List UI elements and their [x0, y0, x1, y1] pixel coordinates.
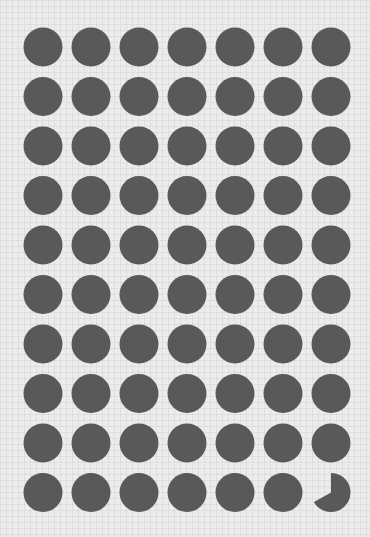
waffle-unit — [72, 77, 111, 116]
waffle-unit — [72, 374, 111, 413]
waffle-unit — [264, 473, 303, 512]
waffle-unit — [168, 424, 207, 463]
waffle-unit — [168, 226, 207, 265]
waffle-unit — [120, 325, 159, 364]
waffle-unit — [216, 325, 255, 364]
waffle-unit — [24, 127, 63, 166]
waffle-unit — [72, 28, 111, 67]
waffle-unit — [24, 176, 63, 215]
waffle-unit — [72, 275, 111, 314]
waffle-unit — [24, 374, 63, 413]
waffle-unit — [72, 325, 111, 364]
waffle-unit — [312, 325, 351, 364]
waffle-unit — [120, 28, 159, 67]
waffle-unit — [312, 176, 351, 215]
waffle-unit — [264, 275, 303, 314]
waffle-unit — [120, 374, 159, 413]
waffle-unit — [120, 275, 159, 314]
waffle-unit — [168, 473, 207, 512]
waffle-unit — [120, 226, 159, 265]
waffle-unit — [264, 77, 303, 116]
waffle-unit — [24, 275, 63, 314]
waffle-partial-unit — [314, 473, 351, 512]
waffle-unit — [120, 77, 159, 116]
waffle-unit — [264, 176, 303, 215]
waffle-unit — [24, 325, 63, 364]
waffle-unit — [312, 77, 351, 116]
waffle-unit — [312, 424, 351, 463]
waffle-unit — [312, 374, 351, 413]
waffle-unit — [216, 424, 255, 463]
waffle-unit — [72, 473, 111, 512]
waffle-unit — [72, 176, 111, 215]
waffle-unit — [216, 275, 255, 314]
waffle-unit — [216, 226, 255, 265]
waffle-unit — [72, 226, 111, 265]
waffle-unit — [216, 473, 255, 512]
waffle-unit — [24, 473, 63, 512]
waffle-unit — [24, 28, 63, 67]
waffle-unit — [264, 424, 303, 463]
waffle-unit — [216, 77, 255, 116]
waffle-unit — [168, 325, 207, 364]
waffle-unit — [312, 127, 351, 166]
waffle-unit — [312, 275, 351, 314]
waffle-unit — [264, 226, 303, 265]
waffle-unit — [168, 28, 207, 67]
waffle-unit — [24, 77, 63, 116]
waffle-unit — [264, 127, 303, 166]
waffle-unit — [264, 28, 303, 67]
waffle-unit — [120, 176, 159, 215]
waffle-unit — [72, 127, 111, 166]
waffle-unit — [264, 374, 303, 413]
waffle-unit — [168, 275, 207, 314]
waffle-unit — [120, 473, 159, 512]
waffle-unit — [72, 424, 111, 463]
waffle-unit — [120, 127, 159, 166]
waffle-unit — [168, 127, 207, 166]
waffle-unit — [168, 77, 207, 116]
waffle-unit — [24, 424, 63, 463]
waffle-unit — [24, 226, 63, 265]
waffle-chart — [0, 0, 370, 537]
waffle-unit — [216, 374, 255, 413]
waffle-unit — [168, 176, 207, 215]
waffle-unit — [168, 374, 207, 413]
waffle-unit — [216, 127, 255, 166]
waffle-unit — [120, 424, 159, 463]
waffle-unit — [216, 176, 255, 215]
waffle-unit — [264, 325, 303, 364]
waffle-unit — [216, 28, 255, 67]
waffle-unit — [312, 226, 351, 265]
waffle-unit — [312, 28, 351, 67]
